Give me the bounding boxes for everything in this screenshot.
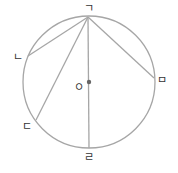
segment-giyeok-digeut <box>36 17 88 120</box>
center-point <box>87 80 91 84</box>
label-point-mieum: ㅁ <box>157 74 167 87</box>
label-point-nieun: ㄴ <box>13 51 23 64</box>
segment-giyeok-nieun <box>28 17 88 56</box>
label-point-rieul: ㄹ <box>84 151 94 164</box>
label-point-giyeok: ㄱ <box>84 2 94 15</box>
segment-giyeok-mieum <box>88 17 154 78</box>
label-point-digeut: ㄷ <box>22 120 32 133</box>
label-center-ieung: ㅇ <box>74 81 84 94</box>
circle-diagram: ㄱ ㄴ ㄷ ㄹ ㅁ ㅇ <box>0 0 178 173</box>
